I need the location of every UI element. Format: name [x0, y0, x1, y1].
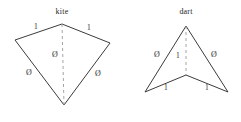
shapes-canvas [0, 0, 241, 122]
kite-edge-label-upper-left: 1 [34, 23, 38, 31]
kite-edge-label-upper-right: 1 [87, 24, 91, 32]
dart-edge-label-upper-right: Ø [211, 51, 217, 59]
kite-edge-label-lower-right: Ø [95, 70, 101, 78]
kite-symmetry-axis [62, 24, 64, 105]
dart-edge-label-lower-left: 1 [164, 84, 168, 92]
penrose-tile-figure: kite 1 1 Ø Ø Ø dart Ø Ø 1 1 1 [0, 0, 241, 122]
kite-edge-label-lower-left: Ø [26, 69, 32, 77]
dart-edge-label-upper-left: Ø [154, 51, 160, 59]
dart-edge-label-lower-right: 1 [205, 84, 209, 92]
dart-title: dart [179, 8, 192, 16]
kite-axis-label: Ø [52, 51, 58, 59]
kite-title: kite [56, 8, 69, 16]
dart-axis-label: 1 [176, 52, 180, 60]
dart-outline [145, 26, 228, 92]
